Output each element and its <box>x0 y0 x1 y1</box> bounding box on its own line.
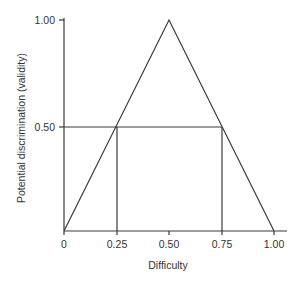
discrimination-curve <box>64 20 274 231</box>
chart: 1.00 0.50 0 0.25 0.50 0.75 1.00 Difficul… <box>0 0 303 286</box>
y-axis-title: Potential discrimination (validity) <box>15 53 27 203</box>
x-tick-label: 0.25 <box>107 238 128 250</box>
y-tick-label: 0.50 <box>35 121 56 133</box>
x-tick-label: 0.75 <box>212 238 233 250</box>
x-tick-label: 0.50 <box>159 238 180 250</box>
x-axis-title: Difficulty <box>148 259 188 271</box>
y-tick-label: 1.00 <box>35 14 56 26</box>
x-tick-label: 1.00 <box>264 238 285 250</box>
x-tick-label: 0 <box>61 238 67 250</box>
